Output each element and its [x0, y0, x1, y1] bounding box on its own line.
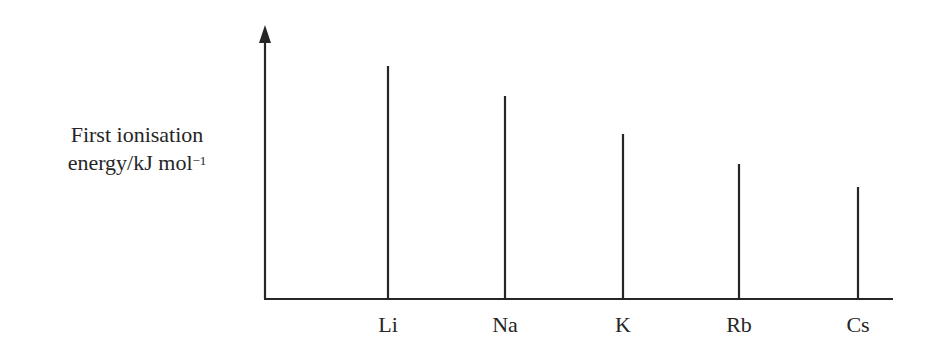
y-axis-arrow-icon — [259, 25, 271, 43]
x-tick-label-cs: Cs — [846, 312, 869, 338]
x-tick-label-k: K — [615, 312, 631, 338]
x-tick-label-na: Na — [492, 312, 518, 338]
x-tick-label-rb: Rb — [726, 312, 752, 338]
x-tick-label-li: Li — [378, 312, 398, 338]
ionisation-energy-chart — [0, 0, 930, 353]
